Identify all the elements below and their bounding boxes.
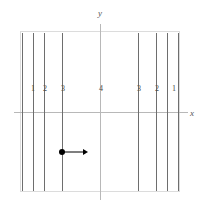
field-line — [22, 33, 23, 191]
tick-label: 4 — [99, 85, 103, 93]
tick-label: 2 — [155, 85, 159, 93]
tick-label: 1 — [172, 85, 176, 93]
field-line — [178, 33, 179, 191]
field-line — [167, 33, 168, 191]
field-line — [156, 33, 157, 191]
x-axis-line — [14, 112, 188, 113]
tick-label: 3 — [61, 85, 65, 93]
tick-label: 2 — [43, 85, 47, 93]
field-line — [44, 33, 45, 191]
x-axis-label: x — [190, 109, 194, 118]
field-line — [138, 33, 139, 191]
field-line — [62, 33, 63, 191]
velocity-vector-shaft — [62, 152, 83, 153]
tick-label: 3 — [137, 85, 141, 93]
field-line — [33, 33, 34, 191]
tick-label: 1 — [31, 85, 35, 93]
y-axis-label: y — [98, 9, 102, 18]
physics-field-line-figure: 1234321 y x — [0, 0, 204, 208]
velocity-vector-arrowhead — [83, 149, 88, 155]
